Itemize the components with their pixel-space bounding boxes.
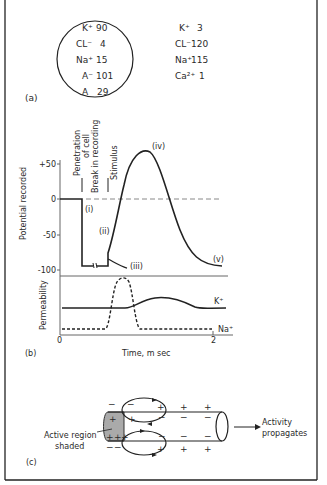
activity-label-2: propagates xyxy=(262,429,307,438)
svg-text:−: − xyxy=(106,442,114,452)
outside-ca-ion: Ca²⁺ xyxy=(175,71,195,81)
svg-text:+: + xyxy=(128,414,136,424)
panel-a-label: (a) xyxy=(25,93,38,103)
svg-text:−: − xyxy=(108,399,116,409)
na-label: Na⁺ xyxy=(218,325,233,334)
stimulus-label: Stimulus xyxy=(110,145,119,180)
arrow-head xyxy=(140,429,145,433)
inside-cl-ion: CL⁻ xyxy=(76,39,92,49)
ytick-label-m100: -100 xyxy=(38,266,56,275)
inside-k-ion: K⁺ xyxy=(82,23,93,33)
panel-c: −−+ ++ ++− −− +++ −−− −−+ ++ Active regi… xyxy=(26,398,307,467)
svg-text:+: + xyxy=(180,402,188,412)
k-label: K⁺ xyxy=(214,297,223,306)
svg-text:+: + xyxy=(121,432,129,442)
xtick-label-2: 2 xyxy=(211,336,216,345)
axon-end xyxy=(216,412,228,441)
label-iii: (iii) xyxy=(130,262,143,271)
outside-ca-value: 1 xyxy=(199,71,205,81)
label-ii: (ii) xyxy=(99,227,110,236)
ytick-label-0: 0 xyxy=(51,195,56,204)
active-region-label-2: shaded xyxy=(55,442,84,451)
outside-na-ion: Na⁺ xyxy=(175,55,192,65)
svg-text:+: + xyxy=(204,444,212,454)
inside-na-value: 15 xyxy=(96,55,107,65)
svg-text:−: − xyxy=(114,442,122,452)
outside-k-value: 3 xyxy=(197,23,203,33)
ytick-label-50: +50 xyxy=(39,160,56,169)
arrow-right-icon xyxy=(255,424,261,430)
svg-text:−: − xyxy=(180,431,188,441)
svg-text:−: − xyxy=(204,431,212,441)
activity-label-1: Activity xyxy=(262,418,292,427)
svg-text:+: + xyxy=(204,402,212,412)
inside-a-ion: A xyxy=(82,87,89,97)
inside-a-minus-ion: A⁻ xyxy=(82,71,93,81)
inside-k-value: 90 xyxy=(96,23,108,33)
svg-text:−: − xyxy=(158,431,166,441)
trace-iii xyxy=(108,259,127,268)
svg-text:+: + xyxy=(157,402,165,412)
svg-text:−: − xyxy=(180,412,188,422)
svg-text:−: − xyxy=(158,412,166,422)
outside-k-ion: K⁺ xyxy=(179,23,190,33)
svg-text:+: + xyxy=(109,414,117,424)
figure: K⁺ 90 CL⁻ 4 Na⁺ 15 A⁻ 101 A 29 K⁺ 3 CL⁻ … xyxy=(0,0,327,485)
panel-b-label: (b) xyxy=(25,349,36,358)
inside-cl-value: 4 xyxy=(100,39,106,49)
active-region-label-1: Active region xyxy=(44,431,97,440)
label-iv: (iv) xyxy=(152,142,165,151)
inside-a-minus-value: 101 xyxy=(96,71,113,81)
penetration-label-2: of cell xyxy=(82,134,91,158)
panel-a: K⁺ 90 CL⁻ 4 Na⁺ 15 A⁻ 101 A 29 K⁺ 3 CL⁻ … xyxy=(25,21,208,103)
xtick-label-0: 0 xyxy=(57,336,62,345)
inside-na-ion: Na⁺ xyxy=(76,55,93,65)
svg-text:−: − xyxy=(127,399,135,409)
arrow-head xyxy=(147,422,152,426)
label-v: (v) xyxy=(213,255,224,264)
ytick-label-m50: -50 xyxy=(43,231,56,240)
break-label: Break in recording xyxy=(91,120,100,193)
outside-na-value: 115 xyxy=(191,55,208,65)
k-permeability-trace xyxy=(62,298,226,309)
panel-b: +50 0 -50 -100 Potential recorded Permea… xyxy=(19,120,233,358)
outside-cl-ion: CL⁻ xyxy=(175,39,191,49)
svg-text:+: + xyxy=(106,432,114,442)
break-marks xyxy=(93,263,97,268)
na-permeability-trace xyxy=(62,278,212,329)
cell-circle xyxy=(57,21,133,97)
svg-text:−: − xyxy=(204,412,212,422)
ylabel-potential: Potential recorded xyxy=(19,167,28,240)
svg-text:+: + xyxy=(157,444,165,454)
svg-text:+: + xyxy=(180,444,188,454)
label-i: (i) xyxy=(85,205,93,214)
panel-c-label: (c) xyxy=(26,458,37,467)
penetration-label-1: Penetration xyxy=(73,130,82,176)
inside-a-value: 29 xyxy=(97,87,109,97)
ylabel-permeability: Permeability xyxy=(39,280,48,330)
outside-cl-value: 120 xyxy=(191,39,208,49)
x-axis-label: Time, m sec xyxy=(121,349,171,358)
